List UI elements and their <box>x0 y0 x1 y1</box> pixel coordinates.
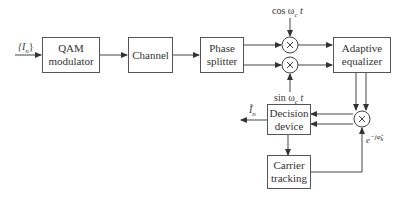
block-label: Carrier <box>273 159 304 172</box>
carrier-tracking-block: Carrier tracking <box>267 155 311 189</box>
block-label: tracking <box>271 172 307 185</box>
block-label: splitter <box>207 55 238 68</box>
block-label: Adaptive <box>342 42 382 55</box>
block-label: modulator <box>48 55 93 68</box>
cos-carrier-label: cos ωc t <box>272 5 303 19</box>
input-symbol-label: {In} <box>18 41 34 55</box>
block-label: Channel <box>132 49 169 62</box>
phase-splitter-block: Phase splitter <box>200 37 244 73</box>
decision-device-block: Decision device <box>267 104 311 135</box>
block-label: device <box>275 120 304 133</box>
block-label: Decision <box>269 107 308 120</box>
sin-carrier-label: sin ωc t <box>274 92 303 106</box>
block-label: QAM <box>58 42 84 55</box>
qam-modulator-block: QAM modulator <box>42 37 100 73</box>
phase-correction-label: e−jφ̂k <box>366 133 383 145</box>
output-symbol-label: Ĩn <box>249 104 256 118</box>
adaptive-equalizer-block: Adaptive equalizer <box>333 37 391 73</box>
channel-block: Channel <box>128 37 173 73</box>
block-label: Phase <box>209 42 235 55</box>
diagram-connections <box>0 0 406 205</box>
block-label: equalizer <box>342 55 382 68</box>
